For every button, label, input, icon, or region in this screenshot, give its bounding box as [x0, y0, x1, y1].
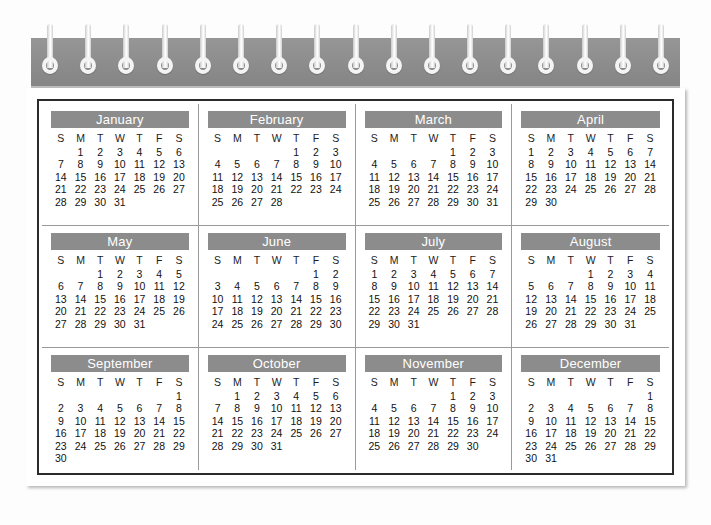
day-cell[interactable]: 6: [247, 158, 267, 170]
day-cell[interactable]: 15: [521, 171, 541, 183]
day-cell[interactable]: 10: [483, 158, 503, 170]
day-cell[interactable]: 14: [640, 158, 660, 170]
day-cell[interactable]: 14: [620, 415, 640, 427]
month-cell-november[interactable]: NovemberSMTWTFS1234567891011121314151617…: [356, 348, 513, 470]
day-cell[interactable]: 5: [169, 268, 189, 280]
day-cell[interactable]: 16: [51, 427, 71, 439]
day-cell[interactable]: 29: [71, 196, 91, 208]
day-cell[interactable]: 20: [601, 427, 621, 439]
day-cell[interactable]: 15: [169, 415, 189, 427]
day-cell[interactable]: 10: [561, 158, 581, 170]
day-cell[interactable]: 18: [90, 427, 110, 439]
day-cell[interactable]: 26: [306, 427, 326, 439]
day-cell[interactable]: 26: [384, 196, 404, 208]
day-cell[interactable]: 28: [51, 196, 71, 208]
day-cell[interactable]: 24: [130, 305, 150, 317]
day-cell[interactable]: 16: [463, 415, 483, 427]
day-cell[interactable]: 29: [521, 196, 541, 208]
day-cell[interactable]: 24: [541, 440, 561, 452]
day-cell[interactable]: 13: [404, 171, 424, 183]
day-cell[interactable]: 29: [581, 318, 601, 330]
day-cell[interactable]: 6: [326, 390, 346, 402]
day-cell[interactable]: 16: [601, 293, 621, 305]
day-cell[interactable]: 23: [326, 305, 346, 317]
day-cell[interactable]: 28: [561, 318, 581, 330]
day-cell[interactable]: 8: [640, 402, 660, 414]
day-cell[interactable]: 19: [384, 427, 404, 439]
day-cell[interactable]: 3: [208, 280, 228, 292]
day-cell[interactable]: 18: [581, 171, 601, 183]
day-cell[interactable]: 3: [404, 268, 424, 280]
day-cell[interactable]: 8: [306, 280, 326, 292]
day-cell[interactable]: 27: [404, 440, 424, 452]
month-cell-august[interactable]: AugustSMTWTFS123456789101112131415161718…: [512, 226, 669, 348]
day-cell[interactable]: 16: [110, 293, 130, 305]
day-cell[interactable]: 30: [90, 196, 110, 208]
day-cell[interactable]: 1: [443, 146, 463, 158]
day-cell[interactable]: 28: [208, 440, 228, 452]
day-cell[interactable]: 13: [404, 415, 424, 427]
day-cell[interactable]: 9: [601, 280, 621, 292]
day-cell[interactable]: 5: [306, 390, 326, 402]
day-cell[interactable]: 9: [247, 402, 267, 414]
day-cell[interactable]: 6: [169, 146, 189, 158]
day-cell[interactable]: 16: [541, 171, 561, 183]
day-cell[interactable]: 3: [483, 390, 503, 402]
day-cell[interactable]: 24: [110, 183, 130, 195]
day-cell[interactable]: 19: [110, 427, 130, 439]
day-cell[interactable]: 19: [601, 171, 621, 183]
day-cell[interactable]: 25: [424, 305, 444, 317]
day-cell[interactable]: 1: [169, 390, 189, 402]
day-cell[interactable]: 25: [90, 440, 110, 452]
day-cell[interactable]: 4: [365, 158, 385, 170]
day-cell[interactable]: 26: [247, 318, 267, 330]
day-cell[interactable]: 5: [384, 402, 404, 414]
day-cell[interactable]: 11: [581, 158, 601, 170]
day-cell[interactable]: 28: [286, 318, 306, 330]
day-cell[interactable]: 23: [90, 183, 110, 195]
day-cell[interactable]: 12: [110, 415, 130, 427]
day-cell[interactable]: 20: [541, 305, 561, 317]
day-cell[interactable]: 1: [306, 268, 326, 280]
day-cell[interactable]: 23: [110, 305, 130, 317]
day-cell[interactable]: 5: [601, 146, 621, 158]
day-cell[interactable]: 2: [601, 268, 621, 280]
day-cell[interactable]: 24: [404, 305, 424, 317]
day-cell[interactable]: 17: [541, 427, 561, 439]
day-cell[interactable]: 15: [443, 415, 463, 427]
day-cell[interactable]: 2: [90, 146, 110, 158]
day-cell[interactable]: 14: [424, 415, 444, 427]
day-cell[interactable]: 15: [286, 171, 306, 183]
day-cell[interactable]: 21: [286, 305, 306, 317]
day-cell[interactable]: 11: [208, 171, 228, 183]
month-cell-september[interactable]: SeptemberSMTWTFS123456789101112131415161…: [42, 348, 199, 470]
day-cell[interactable]: 27: [169, 183, 189, 195]
day-cell[interactable]: 8: [521, 158, 541, 170]
day-cell[interactable]: 14: [424, 171, 444, 183]
day-cell[interactable]: 27: [130, 440, 150, 452]
day-cell[interactable]: 10: [130, 280, 150, 292]
day-cell[interactable]: 3: [483, 146, 503, 158]
day-cell[interactable]: 3: [561, 146, 581, 158]
day-cell[interactable]: 4: [581, 146, 601, 158]
day-cell[interactable]: 20: [620, 171, 640, 183]
day-cell[interactable]: 3: [110, 146, 130, 158]
day-cell[interactable]: 21: [71, 305, 91, 317]
day-cell[interactable]: 24: [71, 440, 91, 452]
day-cell[interactable]: 7: [620, 402, 640, 414]
day-cell[interactable]: 31: [483, 196, 503, 208]
day-cell[interactable]: 12: [306, 402, 326, 414]
day-cell[interactable]: 21: [267, 183, 287, 195]
day-cell[interactable]: 28: [483, 305, 503, 317]
day-cell[interactable]: 14: [267, 171, 287, 183]
day-cell[interactable]: 14: [286, 293, 306, 305]
day-cell[interactable]: 12: [521, 293, 541, 305]
day-cell[interactable]: 6: [463, 268, 483, 280]
day-cell[interactable]: 31: [541, 452, 561, 464]
day-cell[interactable]: 17: [110, 171, 130, 183]
day-cell[interactable]: 12: [601, 158, 621, 170]
day-cell[interactable]: 19: [521, 305, 541, 317]
day-cell[interactable]: 6: [620, 146, 640, 158]
day-cell[interactable]: 13: [51, 293, 71, 305]
day-cell[interactable]: 23: [51, 440, 71, 452]
